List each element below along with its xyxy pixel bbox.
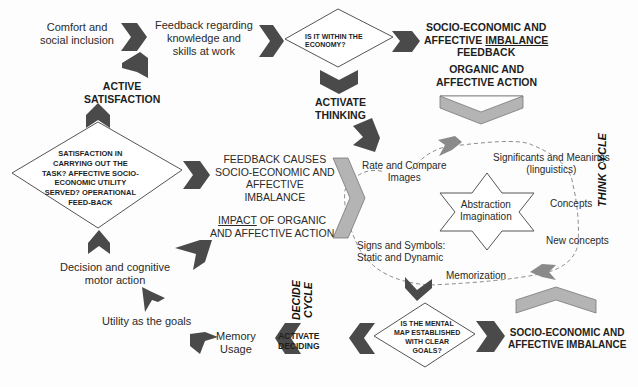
node-impact: IMPACT OF ORGANIC AND AFFECTIVE ACTION <box>210 214 334 239</box>
node-decision-motor: Decision and cognitive motor action <box>60 261 170 287</box>
node-activate-thinking: ACTIVATE THINKING <box>315 96 366 121</box>
node-activate-deciding: ACTIVATE DECIDING <box>278 331 320 351</box>
chevron-up-right-icon <box>122 52 148 78</box>
chevron-up-large-icon <box>516 287 596 313</box>
node-imbalance-bottom: SOCIO-ECONOMIC AND AFFECTIVE IMBALANCE <box>508 327 626 351</box>
node-new-concepts: New concepts <box>546 235 609 247</box>
node-comfort: Comfort and social inclusion <box>40 21 114 47</box>
chevron-up-left-icon <box>190 332 218 354</box>
node-memory-usage: Memory Usage <box>216 330 256 356</box>
chevron-right-icon <box>183 161 210 189</box>
chevron-right-icon <box>476 321 505 352</box>
decide-cycle-label: DECIDE CYCLE <box>290 280 314 320</box>
chevron-right-icon <box>259 25 284 57</box>
chevron-up-left-icon <box>142 287 165 312</box>
node-feedback-causes: FEEDBACK CAUSES SOCIO-ECONOMIC AND AFFEC… <box>215 153 335 203</box>
node-memorization: Memorization <box>446 270 506 282</box>
node-signs-symbols: Signs and Symbols: Static and Dynamic <box>357 240 445 264</box>
node-utility-goals: Utility as the goals <box>102 315 191 328</box>
node-concepts: Concepts <box>550 198 592 210</box>
node-abstraction: Abstraction Imagination <box>460 199 512 223</box>
node-active-satisfaction: ACTIVE SATISFACTION <box>84 80 160 105</box>
chevron-right-icon <box>121 23 147 51</box>
think-cycle-label: THINK CYCLE <box>596 133 609 207</box>
chevron-up-icon <box>88 230 110 254</box>
chevron-right-small-icon <box>438 136 462 156</box>
node-significants: Significants and Meanings (linguistics) <box>493 152 610 176</box>
chevron-left-icon <box>349 323 375 354</box>
node-organic-action: ORGANIC AND AFFECTIVE ACTION <box>436 63 537 88</box>
chevron-right-icon <box>392 31 420 52</box>
chevron-up-right-icon <box>175 240 212 270</box>
chevron-down-right-icon <box>353 118 380 152</box>
node-mental-map-decision: IS THE MENTAL MAP ESTABLISHED WITH CLEAR… <box>394 319 460 355</box>
chevron-down-icon <box>405 277 432 301</box>
chevron-right-large-icon <box>333 158 365 238</box>
diagram-canvas: Comfort and social inclusion Feedback re… <box>0 0 638 387</box>
chevron-left-small-icon <box>530 264 556 280</box>
node-imbalance-feedback: SOCIO-ECONOMIC AND AFFECTIVE IMBALANCE F… <box>424 21 548 59</box>
node-satisfaction-decision: SATISFACTION IN CARRYING OUT THE TASK? A… <box>42 149 139 208</box>
node-rate-compare: Rate and Compare Images <box>362 160 447 184</box>
node-economy-decision: IS IT WITHIN THE ECONOMY? <box>305 33 363 50</box>
node-feedback-knowledge: Feedback regarding knowledge and skills … <box>155 19 253 59</box>
